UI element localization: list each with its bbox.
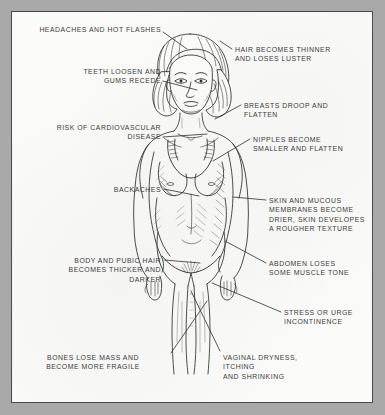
callout-label-vaginal: VAGINAL DRYNESS, ITCHING AND SHRINKING (223, 353, 335, 381)
callout-label-cardiovascular: RISK OF CARDIOVASCULAR DISEASE (19, 123, 161, 142)
callout-label-nipples: NIPPLES BECOME SMALLER AND FLATTEN (253, 135, 373, 154)
callout-label-abdomen: ABDOMEN LOSES SOME MUSCLE TONE (269, 259, 373, 278)
callout-label-bones: BONES LOSE MASS AND BECOME MORE FRAGILE (19, 353, 167, 372)
callout-label-backaches: BACKACHES (61, 185, 161, 194)
callout-label-body-hair: BODY AND PUBIC HAIR BECOMES THICKER AND … (26, 256, 161, 284)
callout-label-skin: SKIN AND MUCOUS MEMBRANES BECOME DRIER, … (269, 196, 373, 234)
callout-label-teeth: TEETH LOOSEN AND GUMS RECEDE (31, 67, 161, 86)
callout-label-breasts: BREASTS DROOP AND FLATTEN (244, 101, 373, 120)
callout-label-headaches: HEADACHES AND HOT FLASHES (21, 25, 161, 34)
callout-label-incontinence: STRESS OR URGE INCONTINENCE (284, 308, 373, 327)
callout-label-hair-thinner: HAIR BECOMES THINNER AND LOSES LUSTER (235, 45, 373, 64)
illustration-plate: HEADACHES AND HOT FLASHESTEETH LOOSEN AN… (11, 11, 373, 403)
